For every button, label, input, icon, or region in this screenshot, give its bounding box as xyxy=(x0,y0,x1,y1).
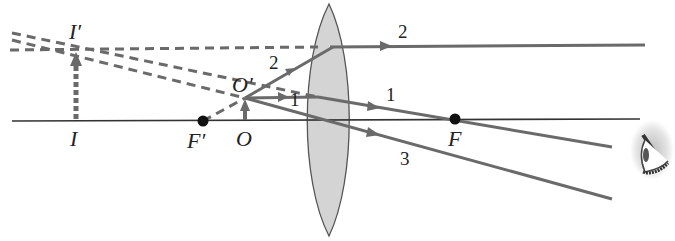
label-ray-1-before: 1 xyxy=(290,89,300,110)
label-focal-left: F′ xyxy=(186,128,206,153)
ray-1-refracted xyxy=(318,97,612,147)
ray-3 xyxy=(245,98,612,199)
eye-icon xyxy=(630,120,674,180)
ray-2-refracted xyxy=(330,45,645,47)
label-object-top: O′ xyxy=(232,72,254,97)
label-image-base: I xyxy=(69,126,79,151)
label-ray-2-after: 2 xyxy=(398,21,408,42)
focal-point-right xyxy=(450,114,461,125)
real-rays xyxy=(245,45,645,199)
ray-diagram: I′ I O′ O F′ F 2 2 1 1 3 xyxy=(0,0,675,241)
ray-1-arrowhead-1 xyxy=(278,92,289,102)
focal-point-left xyxy=(198,116,209,127)
label-object-base: O xyxy=(236,126,252,151)
label-ray-2-before: 2 xyxy=(269,52,279,73)
label-ray-1-after: 1 xyxy=(386,84,396,105)
virtual-ray-extensions xyxy=(10,33,318,121)
ray-2-arrowhead-2 xyxy=(380,41,392,51)
label-image-top: I′ xyxy=(68,19,82,44)
object-arrow-head xyxy=(240,99,250,111)
label-focal-right: F xyxy=(447,126,462,151)
label-ray-3: 3 xyxy=(400,148,410,169)
